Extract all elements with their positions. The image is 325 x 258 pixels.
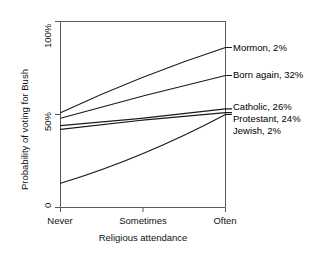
y-tick-label-0: 0 [42, 203, 53, 208]
y-axis-title: Probability of voting for Bush [19, 69, 30, 190]
chart-plot-area: 0 50% 100% Probability of voting for Bus… [0, 0, 325, 258]
x-tick-label-never: Never [47, 215, 72, 226]
y-tick-label-100: 100% [42, 23, 53, 48]
x-tick-label-sometimes: Sometimes [119, 215, 167, 226]
chart-figure: 0 50% 100% Probability of voting for Bus… [0, 0, 325, 258]
series-curve-jewish [61, 115, 226, 184]
x-axis-title: Religious attendance [99, 232, 188, 243]
y-tick-label-50: 50% [42, 111, 53, 131]
x-tick-label-often: Often [213, 215, 236, 226]
series-curve-mormon [61, 48, 226, 113]
series-layer [61, 48, 232, 184]
